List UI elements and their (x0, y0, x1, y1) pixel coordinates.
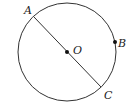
label-c: C (104, 89, 113, 102)
label-o: O (73, 44, 82, 57)
point-b (113, 40, 117, 44)
center-point-o (65, 50, 69, 54)
circle-diagram: A B C O (0, 0, 137, 106)
label-b: B (117, 37, 126, 50)
label-a: A (23, 4, 32, 17)
